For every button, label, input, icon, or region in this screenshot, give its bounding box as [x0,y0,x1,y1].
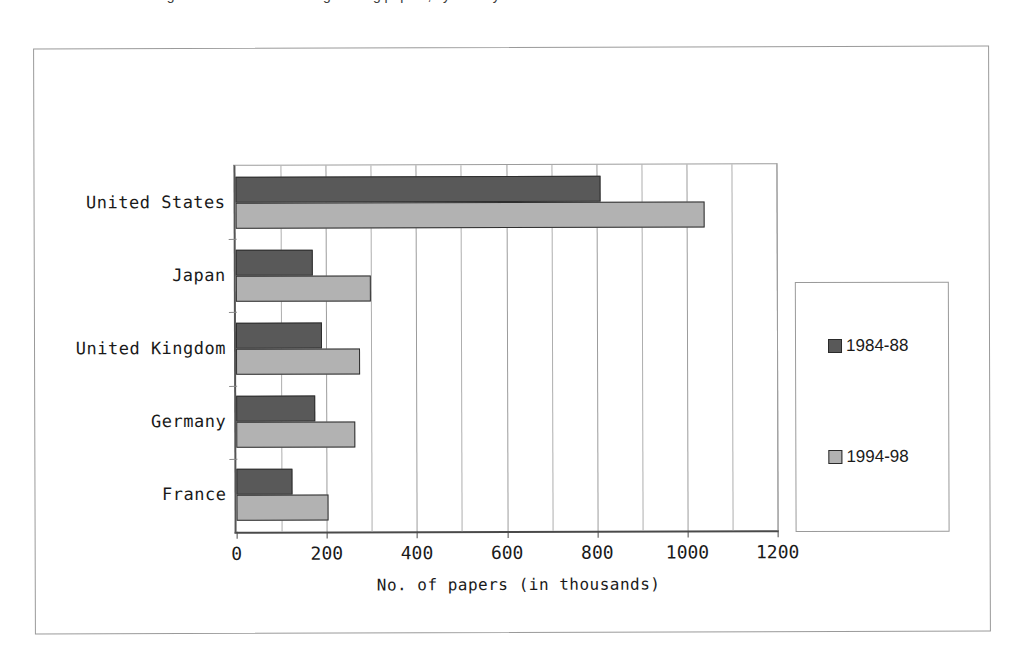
figure-caption-strip: Figure 3-5. Science and engineering pape… [0,0,1017,14]
x-axis-tick [597,531,598,538]
y-axis-category-label: United States [0,191,226,212]
plot-area: No. of papers (in thousands) 02004006008… [233,163,778,534]
chart-frame: No. of papers (in thousands) 02004006008… [33,45,991,634]
chart-legend: 1984-88 1994-98 [795,282,950,532]
y-axis-tick [229,312,237,313]
x-axis-tick-label: 400 [401,542,434,563]
x-axis-tick-label: 800 [581,542,614,563]
bar-group: France [236,468,777,522]
x-axis-title: No. of papers (in thousands) [377,575,661,595]
bar-series-1 [236,249,313,275]
bar-series-2 [236,275,371,301]
x-axis-tick-label: 0 [231,543,242,564]
bar-series-2 [236,422,356,448]
x-axis-tick [237,532,238,539]
bar-series-1 [236,323,322,349]
bar-series-2 [236,495,328,521]
bar-group: Germany [236,394,777,448]
y-axis-tick [229,239,237,240]
bar-series-2 [236,348,360,374]
y-axis-category-label: Japan [0,265,226,286]
legend-entry-1984-88: 1984-88 [828,336,908,356]
x-axis-tick-label: 1000 [666,541,709,562]
x-axis-tick [687,530,688,537]
bar-group: Japan [236,248,777,302]
x-axis-tick [778,530,779,537]
x-axis-tick [327,532,328,539]
x-axis-tick-label: 200 [311,543,344,564]
bar-series-1 [235,175,600,202]
legend-swatch-icon [828,450,842,464]
y-axis-category-label: United Kingdom [0,338,226,359]
bar-group: United Kingdom [236,321,777,375]
x-axis-tick [417,531,418,538]
bar-series-1 [236,469,292,495]
bar-series-2 [236,201,705,228]
bar-series-1 [236,396,315,422]
legend-entry-1994-98: 1994-98 [828,447,908,467]
bar-group: United States [235,175,776,229]
x-axis-tick-label: 1200 [756,541,799,562]
legend-label: 1984-88 [846,336,908,356]
y-axis-tick [229,459,237,460]
x-axis-tick [507,531,508,538]
legend-label: 1994-98 [846,447,908,467]
x-axis-tick-label: 600 [491,542,524,563]
legend-swatch-icon [828,339,842,353]
y-axis-category-label: Germany [0,411,226,432]
y-axis-category-label: France [0,484,227,505]
figure-caption: Figure 3-5. Science and engineering pape… [155,0,500,3]
y-axis-tick [229,385,237,386]
